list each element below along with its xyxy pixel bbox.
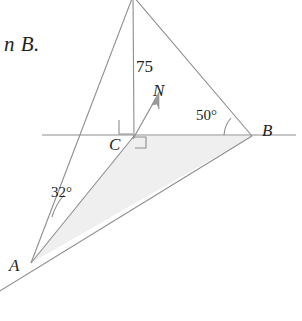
vertex-label-b: B bbox=[262, 122, 272, 139]
angle-label-b: 50° bbox=[196, 108, 217, 123]
north-label: N bbox=[153, 82, 164, 99]
vertex-label-c: C bbox=[109, 136, 120, 153]
sentence-fragment-text: n B. bbox=[4, 34, 40, 55]
vertical-height-segment bbox=[133, 0, 134, 137]
vertex-label-a: A bbox=[9, 257, 19, 274]
height-label: 75 bbox=[136, 58, 153, 75]
geometry-diagram bbox=[0, 0, 302, 321]
angle-arc-b bbox=[224, 118, 231, 135]
figure-root: n B. 75 N 50° B C 32° A bbox=[0, 0, 302, 321]
angle-label-a: 32° bbox=[51, 185, 72, 200]
right-angle-mark-upper bbox=[119, 120, 133, 134]
